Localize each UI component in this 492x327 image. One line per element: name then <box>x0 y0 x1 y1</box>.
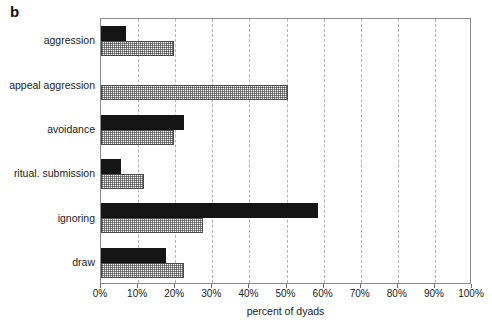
x-tick-label: 40% <box>238 289 258 299</box>
x-tick-label: 50% <box>275 289 295 299</box>
x-tick-label: 70% <box>350 289 370 299</box>
bar-draw-black <box>101 248 166 263</box>
bar-aggression-hatched <box>101 41 174 56</box>
x-tick-label: 20% <box>164 289 184 299</box>
category-label-avoidance: avoidance <box>1 124 95 135</box>
bar-ignoring-black <box>101 203 318 218</box>
x-tick-label: 100% <box>458 289 484 299</box>
bar-row <box>101 108 470 152</box>
x-tick-label: 90% <box>424 289 444 299</box>
category-label-aggression: aggression <box>1 35 95 46</box>
bar-ritual-submission-black <box>101 159 121 174</box>
plot-area <box>100 18 471 284</box>
bar-row <box>101 241 470 285</box>
category-axis-labels: aggressionappeal aggressionavoidanceritu… <box>0 18 95 284</box>
x-tick-label: 0% <box>93 289 107 299</box>
bar-row <box>101 152 470 196</box>
bar-ignoring-hatched <box>101 218 203 233</box>
category-label-draw: draw <box>1 257 95 268</box>
x-axis-tick-labels: 0%10%20%30%40%50%60%70%80%90%100% <box>100 289 471 303</box>
x-tick-label: 80% <box>387 289 407 299</box>
bar-row <box>101 63 470 107</box>
figure-panel-b: b aggressionappeal aggressionavoidanceri… <box>0 0 492 327</box>
bar-row <box>101 196 470 240</box>
bar-row <box>101 19 470 63</box>
panel-letter: b <box>10 4 19 19</box>
category-label-appeal-aggression: appeal aggression <box>1 80 95 91</box>
bar-avoidance-black <box>101 115 184 130</box>
category-label-ignoring: ignoring <box>1 213 95 224</box>
x-tick-label: 60% <box>313 289 333 299</box>
bar-draw-hatched <box>101 263 184 278</box>
category-label-ritual-submission: ritual. submission <box>1 168 95 179</box>
x-tick-label: 10% <box>127 289 147 299</box>
bar-appeal-aggression-hatched <box>101 85 288 100</box>
x-axis-title: percent of dyads <box>100 306 471 317</box>
bar-avoidance-hatched <box>101 130 174 145</box>
bar-aggression-black <box>101 26 126 41</box>
x-tick-label: 30% <box>201 289 221 299</box>
bar-ritual-submission-hatched <box>101 174 144 189</box>
